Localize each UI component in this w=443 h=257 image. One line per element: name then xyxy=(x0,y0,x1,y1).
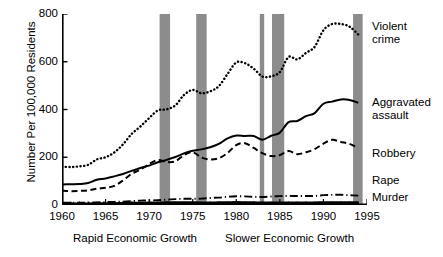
series-label-line: Murder xyxy=(372,191,408,204)
chart-figure: Number Per 100,000 Residents 02004006008… xyxy=(0,0,443,257)
recession-bands xyxy=(160,14,363,204)
series-line-aggravated-assault xyxy=(62,99,358,184)
x-axis-tick-label: 1965 xyxy=(86,210,126,222)
x-axis-tick-label: 1960 xyxy=(42,210,82,222)
x-axis-tick-label: 1985 xyxy=(260,210,300,222)
series-label-murder: Murder xyxy=(372,191,408,204)
series-label-violent-crime: Violentcrime xyxy=(372,20,407,45)
series-label-line: crime xyxy=(372,33,407,46)
chart-axes xyxy=(62,14,367,205)
series-label-line: assault xyxy=(372,109,431,122)
series-label-line: Aggravated xyxy=(372,96,431,109)
series-label-aggravated-assault: Aggravatedassault xyxy=(372,96,431,121)
recession-band xyxy=(196,14,206,204)
plot-area xyxy=(62,14,367,205)
recession-band xyxy=(260,14,264,204)
series-label-rape: Rape xyxy=(372,174,400,187)
x-axis-tick-label: 1980 xyxy=(216,210,256,222)
y-axis-tick-label: 600 xyxy=(39,56,58,68)
data-series xyxy=(62,23,358,203)
series-label-line: Violent xyxy=(372,20,407,33)
y-axis-tick-label: 200 xyxy=(39,151,58,163)
rapid-growth-note: Rapid Economic Growth xyxy=(73,232,197,245)
series-line-murder xyxy=(62,203,358,204)
series-label-robbery: Robbery xyxy=(372,147,415,160)
series-label-line: Rape xyxy=(372,174,400,187)
y-axis-tick-label: 800 xyxy=(39,8,58,20)
x-axis-tick-label: 1975 xyxy=(173,210,213,222)
slower-growth-note: Slower Economic Growth xyxy=(225,232,354,245)
x-axis-tick-label: 1970 xyxy=(129,210,169,222)
y-axis-tick-label: 400 xyxy=(39,104,58,116)
y-axis-tick-label: 0 xyxy=(52,199,58,211)
recession-band xyxy=(272,14,284,204)
series-line-violent-crime xyxy=(62,23,358,167)
axis-spines xyxy=(63,14,367,204)
x-axis-tick-labels: 19601965197019751980198519901995 xyxy=(0,210,443,226)
series-label-line: Robbery xyxy=(372,147,415,160)
x-axis-tick-label: 1995 xyxy=(347,210,387,222)
x-axis-tick-label: 1990 xyxy=(303,210,343,222)
recession-band xyxy=(353,14,363,204)
chart-canvas xyxy=(62,14,367,205)
